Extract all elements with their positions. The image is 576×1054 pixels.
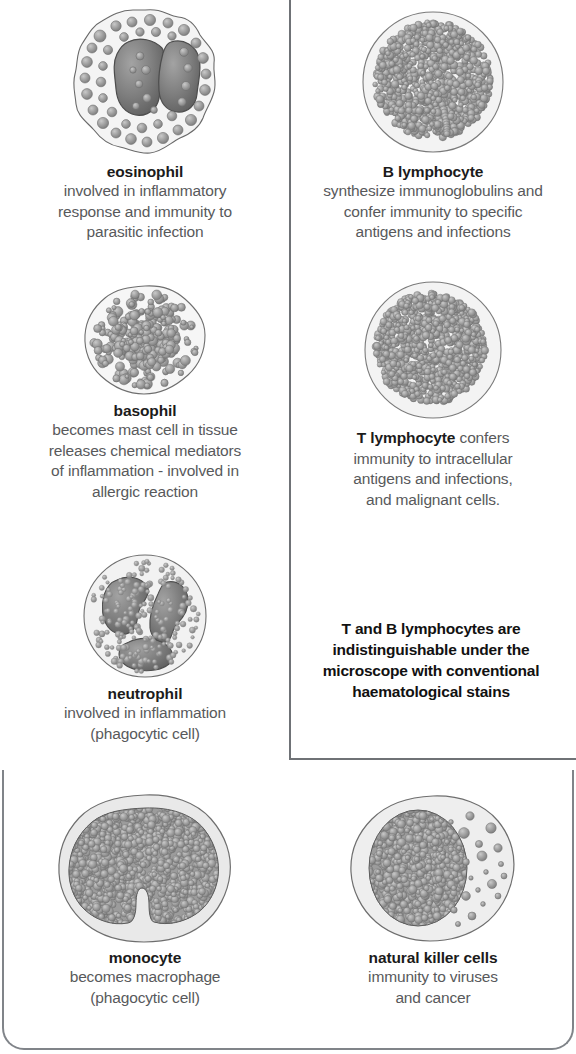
desc-line-with-name: T lymphocyte confers [296, 428, 570, 449]
cell-description: immunity to viruses and cancer [296, 967, 570, 1008]
cell-caption: basophil becomes mast cell in tissue rel… [8, 401, 282, 502]
cell-description: involved in inflammatory response and im… [8, 181, 282, 243]
note-line: indistinguishable under the [296, 639, 566, 660]
basophil-cell-icon [81, 283, 209, 397]
desc-line: response and immunity to [8, 202, 282, 223]
desc-line: immunity to intracellular [296, 449, 570, 470]
cell-card-b-lymphocyte: {} B lymphocyte synthesize immunoglobuli… [296, 8, 570, 243]
cell-description: involved in inflammation (phagocytic cel… [8, 703, 282, 744]
t-lymphocyte-cell-icon [360, 278, 506, 424]
desc-line: of inflammation - involved in [8, 461, 282, 482]
b-lymphocyte-cell-icon: {} [357, 8, 509, 158]
cell-name: natural killer cells [296, 948, 570, 967]
desc-line: antigens and infections, [296, 469, 570, 490]
cell-card-basophil: basophil becomes mast cell in tissue rel… [8, 283, 282, 502]
note-line: T and B lymphocytes are [296, 618, 566, 639]
cell-caption: neutrophil involved in inflammation (pha… [8, 684, 282, 744]
natural-killer-cell-icon [346, 792, 520, 944]
desc-line: parasitic infection [8, 222, 282, 243]
cell-caption: eosinophil involved in inflammatory resp… [8, 162, 282, 243]
desc-line: releases chemical mediators [8, 441, 282, 462]
cell-name: monocyte [8, 948, 282, 967]
cell-card-natural-killer-cells: natural killer cells immunity to viruses… [296, 792, 570, 1008]
cell-caption: monocyte becomes macrophage (phagocytic … [8, 948, 282, 1008]
cell-name: B lymphocyte [296, 162, 570, 181]
cell-name-suffix: confers [455, 429, 509, 446]
cell-card-t-lymphocyte: T lymphocyte confers immunity to intrace… [296, 278, 570, 510]
lymphocyte-note: T and B lymphocytes are indistinguishabl… [296, 618, 566, 702]
desc-line: antigens and infections [296, 222, 570, 243]
desc-line: becomes mast cell in tissue [8, 420, 282, 441]
white-blood-cells-figure: eosinophil involved in inflammatory resp… [0, 0, 576, 1054]
cell-description: becomes macrophage (phagocytic cell) [8, 967, 282, 1008]
desc-line: allergic reaction [8, 482, 282, 503]
cell-name: neutrophil [8, 684, 282, 703]
eosinophil-cell-icon [70, 6, 220, 158]
cell-name: basophil [8, 401, 282, 420]
neutrophil-cell-icon [81, 552, 209, 680]
desc-line: and malignant cells. [296, 490, 570, 511]
cell-card-neutrophil: neutrophil involved in inflammation (pha… [8, 552, 282, 744]
cell-card-eosinophil: eosinophil involved in inflammatory resp… [8, 6, 282, 243]
desc-line: confer immunity to specific [296, 202, 570, 223]
cell-caption: B lymphocyte synthesize immunoglobulins … [296, 162, 570, 243]
cell-name: T lymphocyte [357, 429, 456, 446]
desc-line: synthesize immunoglobulins and [296, 181, 570, 202]
cell-description: synthesize immunoglobulins and confer im… [296, 181, 570, 243]
cell-description: becomes mast cell in tissue releases che… [8, 420, 282, 502]
cell-name: eosinophil [8, 162, 282, 181]
monocyte-cell-icon [54, 792, 236, 944]
cell-card-monocyte: monocyte becomes macrophage (phagocytic … [8, 792, 282, 1008]
desc-line: becomes macrophage [8, 967, 282, 988]
desc-line: and cancer [296, 988, 570, 1009]
note-line: microscope with conventional [296, 660, 566, 681]
desc-line: (phagocytic cell) [8, 988, 282, 1009]
cell-caption: T lymphocyte confers immunity to intrace… [296, 428, 570, 510]
desc-line: involved in inflammatory [8, 181, 282, 202]
cell-caption: natural killer cells immunity to viruses… [296, 948, 570, 1008]
desc-line: (phagocytic cell) [8, 724, 282, 745]
cell-description: T lymphocyte confers immunity to intrace… [296, 428, 570, 510]
desc-line: immunity to viruses [296, 967, 570, 988]
desc-line: involved in inflammation [8, 703, 282, 724]
note-line: haematological stains [296, 681, 566, 702]
